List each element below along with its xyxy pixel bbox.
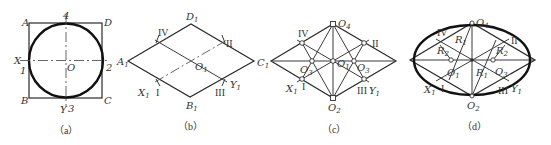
label-roman-ii: II [372,38,379,49]
label-roman-i: I [302,81,305,92]
label-point-4: 4 [62,10,69,21]
label-roman-iv: IV [158,27,169,38]
label-c: C [104,95,112,106]
isometric-ellipse-construction-figure: A D B C X Y O 1 2 3 4 （a） A1 D1 B1 C1 O1… [0,0,551,145]
label-o3: O3 [357,62,370,75]
label-d: D [103,17,112,28]
label-roman-iii: III [215,87,225,98]
point-o4 [331,22,336,27]
label-o2: O2 [328,102,341,115]
label-d1: D1 [185,11,199,24]
point-o2 [331,96,336,101]
label-r2-left: R2 [436,45,450,58]
label-r2: R2 [495,45,509,58]
point-o1 [449,58,453,62]
center-point [470,58,474,62]
label-point-1: 1 [20,65,26,76]
label-roman-i: I [156,87,159,98]
label-a1: A1 [116,56,129,69]
caption-c: （c） [322,124,346,135]
label-o1: O1 [337,58,350,71]
panel-d: O4 O2 O1 O3 R1 R1 R2 R2 X1 Y1 I II III I… [410,17,535,132]
point-o3 [491,58,495,62]
caption-d: （d） [462,121,487,132]
point-iii [362,77,367,82]
label-o1: O1 [195,61,208,74]
caption-b: （b） [178,121,203,132]
label-roman-iv: IV [437,27,448,38]
label-y1: Y1 [511,83,522,96]
point-o2 [470,94,474,98]
label-o4: O4 [476,17,489,30]
point-o1 [331,59,336,64]
label-roman-ii: II [511,35,518,46]
label-o2: O2 [467,100,480,113]
label-point-3: 3 [68,103,74,114]
panel-b: A1 D1 B1 C1 O1 X1 Y1 I II III IV （b） [116,11,269,132]
label-y1: Y1 [369,85,380,98]
point-o4 [470,21,474,25]
label-a: A [21,17,29,28]
label-roman-i: I [441,83,444,94]
label-o4: O4 [338,18,351,31]
label-roman-iv: IV [298,28,309,39]
label-r1-right: R1 [475,67,488,80]
label-roman-iii: III [357,85,367,96]
label-x1: X1 [285,83,298,96]
label-y1: Y1 [230,79,241,92]
label-b1: B1 [185,100,198,113]
point-iv [300,41,305,46]
label-roman-iii: III [498,85,508,96]
label-o3-left: O3 [300,64,313,77]
point-o3 [352,59,357,64]
label-b: B [20,95,28,106]
panel-c: O4 O2 O1 O3 O3 X1 Y1 I II III IV （c） [271,18,396,135]
point-ii [362,41,367,46]
point-o3-left [310,59,315,64]
label-c1: C1 [257,57,269,70]
caption-a: （a） [54,125,78,136]
panel-a: A D B C X Y O 1 2 3 4 （a） [13,10,112,136]
label-r1: R1 [454,34,467,47]
label-y: Y [60,104,68,115]
label-roman-ii: II [226,38,233,49]
label-o: O [67,62,75,73]
label-point-2: 2 [105,62,112,73]
label-x1: X1 [137,87,150,100]
